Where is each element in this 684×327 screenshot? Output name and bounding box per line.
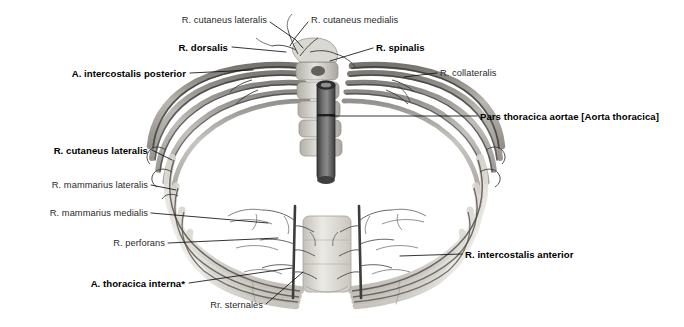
label-a-intercostalis-posterior: A. intercostalis posterior bbox=[72, 68, 186, 79]
label-r-cutaneus-lateralis-top: R. cutaneus lateralis bbox=[182, 15, 267, 26]
label-r-collateralis: R. collateralis bbox=[440, 68, 497, 79]
label-r-mammarius-lateralis: R. mammarius lateralis bbox=[52, 180, 148, 191]
label-r-spinalis: R. spinalis bbox=[376, 42, 425, 53]
label-r-dorsalis: R. dorsalis bbox=[178, 42, 228, 53]
anatomical-figure: R. cutaneus lateralis R. cutaneus medial… bbox=[0, 0, 684, 327]
label-rr-sternales: Rr. sternales bbox=[210, 300, 263, 311]
label-r-cutaneus-medialis: R. cutaneus medialis bbox=[311, 15, 398, 26]
label-r-intercostalis-anterior: R. intercostalis anterior bbox=[465, 249, 573, 260]
label-pars-thoracica-aortae: Pars thoracica aortae [Aorta thoracica] bbox=[480, 111, 659, 122]
label-r-cutaneus-lateralis-left: R. cutaneus lateralis bbox=[54, 145, 148, 156]
label-r-mammarius-medialis: R. mammarius medialis bbox=[50, 208, 148, 219]
label-a-thoracica-interna: A. thoracica interna* bbox=[91, 278, 185, 289]
label-r-perforans: R. perforans bbox=[113, 238, 165, 249]
thoracic-aorta bbox=[317, 81, 335, 184]
